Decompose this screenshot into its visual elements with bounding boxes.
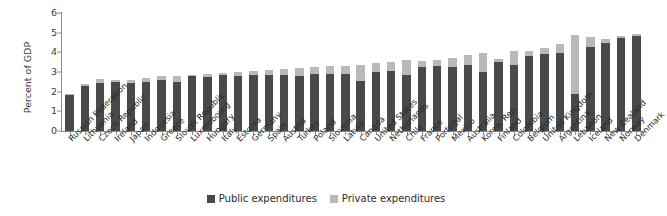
bar-segment-private (341, 66, 349, 74)
chart-legend: Public expendituresPrivate expenditures (0, 193, 652, 204)
bar-segment-private (586, 37, 594, 48)
bar-stack (418, 61, 426, 131)
legend-label: Public expenditures (219, 193, 317, 204)
bar-segment-private (479, 53, 487, 72)
bar-segment-private (356, 65, 364, 81)
bar-stack (65, 94, 73, 131)
bar-segment-private (295, 68, 303, 76)
bar-segment-private (448, 58, 456, 67)
legend-swatch-icon (330, 195, 338, 203)
bar-segment-private (402, 60, 410, 75)
legend-item: Public expenditures (207, 193, 317, 204)
legend-swatch-icon (207, 195, 215, 203)
bar-segment-public (418, 67, 426, 131)
bar-segment-private (372, 63, 380, 72)
legend-item: Private expenditures (330, 193, 445, 204)
bar-segment-private (556, 44, 564, 53)
bar-segment-public (234, 76, 242, 131)
bar-stack (234, 72, 242, 131)
y-axis-tick-labels: 0123456 (0, 0, 57, 216)
legend-label: Private expenditures (342, 193, 445, 204)
bar-segment-private (387, 62, 395, 71)
bar-segment-private (326, 66, 334, 74)
bar-segment-private (310, 67, 318, 74)
bar-segment-private (464, 55, 472, 65)
bar-segment-public (65, 95, 73, 131)
bar-segment-private (571, 35, 579, 94)
bar-segment-private (510, 51, 518, 65)
